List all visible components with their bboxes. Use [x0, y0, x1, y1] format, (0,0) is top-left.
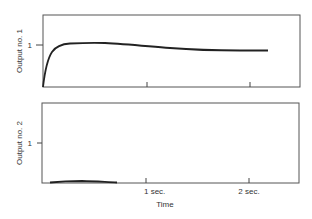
top-panel: 1 Output no. 1	[15, 15, 300, 87]
bottom-ytick-label: 1	[28, 139, 33, 148]
xtick-label-2sec: 2 sec.	[238, 187, 259, 196]
x-axis-label: Time	[156, 200, 174, 209]
bottom-plot-frame	[42, 103, 299, 183]
bottom-panel: 1 Output no. 2 1 sec. 2 sec. Time	[15, 103, 299, 209]
bottom-ylabel: Output no. 2	[15, 120, 24, 165]
output-2-curve	[50, 181, 117, 183]
xtick-label-1sec: 1 sec.	[144, 187, 165, 196]
top-ytick-label: 1	[28, 41, 33, 50]
top-ylabel: Output no. 1	[15, 28, 24, 73]
output-1-curve	[43, 43, 268, 87]
chart-figure: 1 Output no. 1 1 Output no. 2 1 sec. 2 s…	[0, 0, 312, 219]
